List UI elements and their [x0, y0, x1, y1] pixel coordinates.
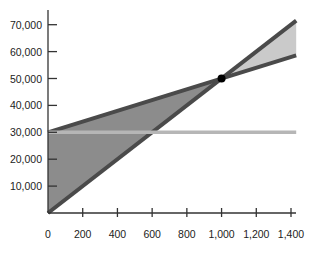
x-tick-label: 1,200 [243, 228, 269, 240]
y-tick-label: 30,000 [10, 126, 42, 138]
x-tick-label: 0 [45, 228, 51, 240]
chart-lines [48, 21, 296, 213]
x-tick-label: 800 [178, 228, 196, 240]
break-even-point [218, 75, 226, 83]
x-tick-label: 1,000 [208, 228, 234, 240]
total-revenue-line [48, 21, 296, 213]
total-cost-line [48, 55, 296, 132]
x-tick-label: 400 [109, 228, 127, 240]
x-axis-labels: 02004006008001,0001,2001,400 [45, 228, 304, 240]
y-tick-label: 70,000 [10, 19, 42, 31]
x-tick-label: 600 [143, 228, 161, 240]
y-tick-label: 60,000 [10, 46, 42, 58]
y-tick-label: 10,000 [10, 180, 42, 192]
y-tick-label: 50,000 [10, 73, 42, 85]
chart-points [218, 75, 226, 83]
x-tick-label: 200 [74, 228, 92, 240]
y-tick-label: 20,000 [10, 153, 42, 165]
y-tick-label: 40,000 [10, 99, 42, 111]
y-axis-labels: 10,00020,00030,00040,00050,00060,00070,0… [10, 19, 42, 192]
break-even-chart: 10,00020,00030,00040,00050,00060,00070,0… [0, 0, 319, 253]
x-tick-label: 1,400 [278, 228, 304, 240]
